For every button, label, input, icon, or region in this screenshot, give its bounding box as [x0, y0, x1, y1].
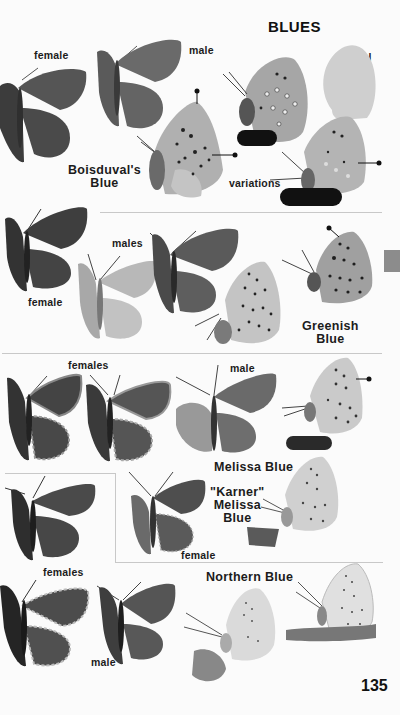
- field-guide-page: BLUES female male actual size Boisduval'…: [0, 0, 400, 715]
- butterfly-open-wings-icon: [172, 365, 280, 457]
- divider-1: [100, 212, 382, 213]
- butterfly-open-wings-icon: [3, 203, 88, 295]
- butterfly-open-wings-icon: [78, 252, 158, 344]
- butterfly-side-view-icon: [286, 562, 378, 652]
- butterfly-side-view-icon: [280, 356, 370, 456]
- butterfly-open-wings-icon: [0, 58, 88, 166]
- species-name-greenish-blue: Greenish Blue: [302, 320, 359, 346]
- karner-box-top: [5, 473, 115, 474]
- butterfly-open-wings-icon: [95, 580, 179, 666]
- butterfly-open-wings-icon: [125, 466, 207, 558]
- butterfly-side-view-icon: [182, 585, 282, 685]
- field-mark-pointer-icon: [194, 88, 200, 104]
- section-title: BLUES: [268, 18, 321, 35]
- field-mark-pointer-icon: [356, 376, 372, 382]
- divider-2: [2, 353, 382, 354]
- field-mark-pointer-icon: [212, 152, 238, 158]
- section-thumb-tab: [384, 250, 400, 272]
- label-males: males: [112, 238, 143, 249]
- karner-box-side: [115, 473, 116, 562]
- butterfly-side-view-icon: [245, 455, 345, 550]
- label-female: female: [28, 297, 62, 308]
- butterfly-open-wings-icon: [3, 476, 98, 562]
- butterfly-side-view-icon: [282, 230, 378, 312]
- field-mark-pointer-icon: [326, 225, 340, 239]
- butterfly-side-view-icon: [195, 260, 287, 352]
- species-name-boisduvals-blue: Boisduval's Blue: [68, 164, 141, 190]
- label-females: females: [68, 360, 109, 371]
- page-number: 135: [361, 677, 388, 695]
- label-male: male: [189, 45, 214, 56]
- butterfly-open-wings-icon: [0, 580, 92, 670]
- butterfly-open-wings-icon: [84, 375, 174, 465]
- butterfly-open-wings-icon: [5, 372, 83, 464]
- label-females: females: [43, 567, 84, 578]
- species-name-northern-blue: Northern Blue: [206, 571, 293, 584]
- field-mark-pointer-icon: [358, 160, 382, 166]
- actual-size-silhouette-icon: [312, 40, 382, 120]
